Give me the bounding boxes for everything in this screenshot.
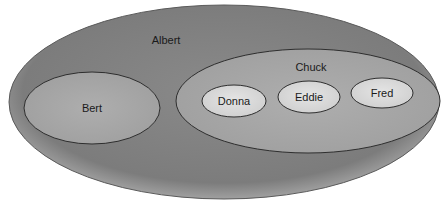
set-eddie: Eddie xyxy=(278,81,340,113)
set-bert-label: Bert xyxy=(82,102,102,114)
nested-set-diagram: Albert Bert Chuck Donna Eddie Fred xyxy=(0,0,448,207)
set-donna: Donna xyxy=(202,85,266,117)
set-albert-label: Albert xyxy=(152,34,181,46)
set-donna-label: Donna xyxy=(218,95,251,107)
set-fred: Fred xyxy=(351,78,413,108)
set-fred-label: Fred xyxy=(371,87,394,99)
set-chuck-label: Chuck xyxy=(295,61,327,73)
set-eddie-label: Eddie xyxy=(295,91,323,103)
set-bert: Bert xyxy=(24,72,160,144)
